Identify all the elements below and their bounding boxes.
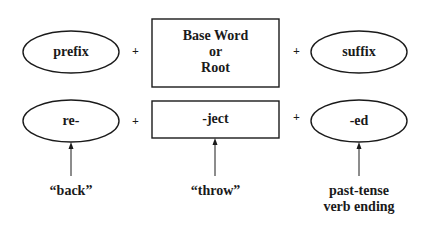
arrow-throw	[213, 138, 218, 176]
base-word-line-3: Root	[152, 60, 279, 76]
meaning-throw: “throw”	[152, 183, 279, 199]
plus-sign: +	[132, 44, 139, 59]
meaning-past-tense-line-1: past-tense	[300, 183, 418, 199]
ed-label: -ed	[311, 113, 407, 129]
re-label: re-	[23, 113, 119, 129]
suffix-label: suffix	[311, 44, 407, 60]
base-word-line-1: Base Word	[152, 28, 279, 44]
base-word-line-2: or	[152, 44, 279, 60]
plus-sign: +	[293, 110, 300, 125]
arrow-past-tense	[357, 142, 362, 176]
plus-sign: +	[293, 44, 300, 59]
meaning-past-tense-line-2: verb ending	[300, 199, 418, 215]
arrow-back	[69, 142, 74, 176]
plus-sign: +	[132, 114, 139, 129]
ject-label: -ject	[152, 111, 279, 127]
prefix-label: prefix	[23, 44, 119, 60]
meaning-back: “back”	[23, 183, 119, 199]
